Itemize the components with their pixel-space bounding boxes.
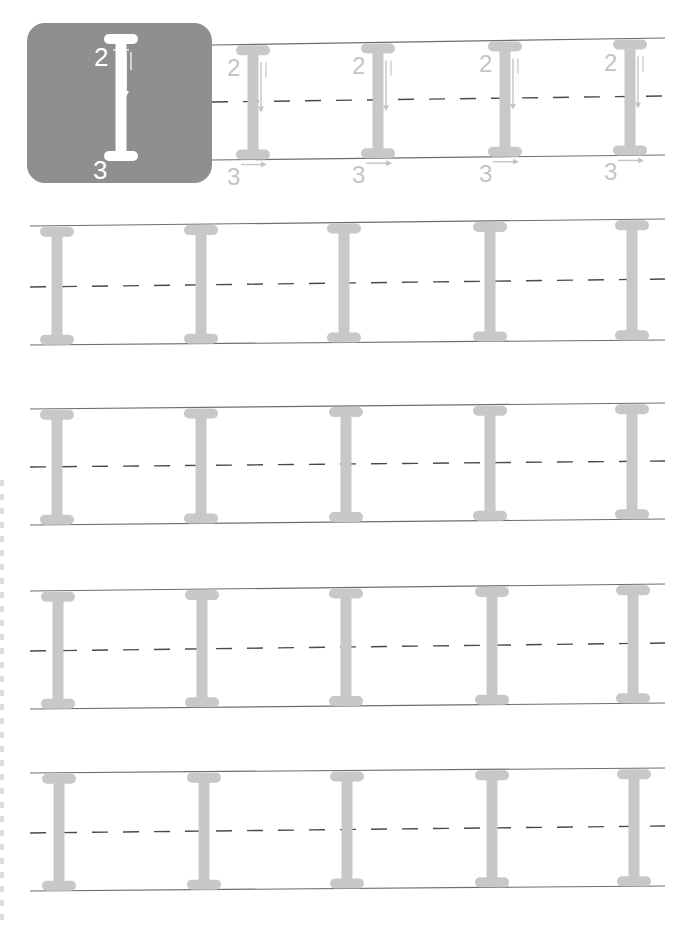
stroke-number-3: 3 xyxy=(604,158,617,185)
example-letter-box: 23 xyxy=(27,23,212,185)
practice-row xyxy=(30,219,665,345)
top-line xyxy=(212,38,665,45)
guided-tracing-row: 23232323 xyxy=(212,38,665,190)
trace-letter-I xyxy=(40,227,74,345)
trace-letter-I xyxy=(616,585,650,703)
practice-row xyxy=(30,768,665,891)
scan-edge-marks xyxy=(0,480,4,920)
stroke-number-2: 2 xyxy=(227,54,240,81)
stroke-number-2: 2 xyxy=(479,50,492,77)
trace-letter-I xyxy=(329,407,363,522)
practice-rows xyxy=(30,219,665,891)
trace-letter-I xyxy=(475,587,509,705)
stroke-number-2: 2 xyxy=(94,42,108,72)
practice-row xyxy=(30,403,665,525)
trace-letter-I: 23 xyxy=(479,41,522,186)
stroke-number-3: 3 xyxy=(227,163,240,190)
handwriting-worksheet: 23 23232323 I xyxy=(0,0,688,928)
stroke-number-3: 3 xyxy=(352,161,365,188)
trace-letter-I xyxy=(615,220,649,340)
trace-letter-I: 23 xyxy=(604,40,647,186)
trace-letter-I: 23 xyxy=(352,43,395,188)
baseline xyxy=(212,155,665,160)
trace-letter-I xyxy=(617,769,651,886)
stroke-number-2: 2 xyxy=(604,49,617,76)
stroke-number-3: 3 xyxy=(479,160,492,187)
midline-dashed xyxy=(212,96,665,102)
stroke-number-2: 2 xyxy=(352,52,365,79)
trace-letter-I xyxy=(475,770,509,887)
trace-letter-I xyxy=(329,589,363,706)
stroke-number-3: 3 xyxy=(93,155,107,185)
trace-letter-I: 23 xyxy=(227,45,270,189)
practice-row xyxy=(30,584,665,709)
trace-letter-I xyxy=(330,772,364,889)
